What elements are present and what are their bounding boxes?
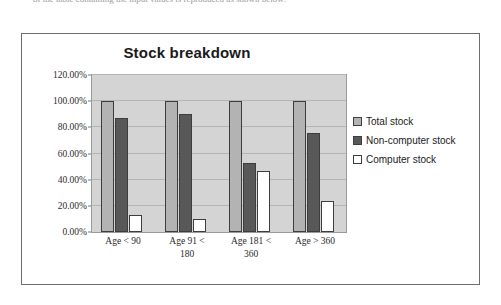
chart-title: Stock breakdown xyxy=(22,44,352,61)
x-axis-tick-label: Age > 360 xyxy=(283,235,347,248)
chart-legend: Total stockNon-computer stockComputer st… xyxy=(353,113,477,170)
y-axis-tick-label: 60.00% xyxy=(22,149,87,159)
legend-swatch-icon xyxy=(353,136,362,145)
bar[interactable] xyxy=(257,171,270,232)
legend-item-label: Computer stock xyxy=(366,154,436,165)
bar[interactable] xyxy=(179,114,192,232)
bar[interactable] xyxy=(193,219,206,232)
y-axis-tick-label: 0.00% xyxy=(22,227,87,237)
legend-item[interactable]: Computer stock xyxy=(353,151,477,168)
x-axis-tick-label-line: Age 91 < xyxy=(155,235,219,248)
bar-group xyxy=(92,75,156,232)
y-axis: 0.00%20.00%40.00%60.00%80.00%100.00%120.… xyxy=(22,74,87,233)
x-axis: Age < 90Age 91 <180Age 181 <360Age > 360 xyxy=(91,235,347,271)
legend-swatch-icon xyxy=(353,117,362,126)
y-axis-tick-label: 80.00% xyxy=(22,122,87,132)
x-axis-tick-label-line: Age 181 < xyxy=(219,235,283,248)
legend-item-label: Total stock xyxy=(366,116,413,127)
bar[interactable] xyxy=(321,201,334,232)
bar[interactable] xyxy=(293,101,306,232)
clipped-header-text: of the table containing the input values… xyxy=(33,0,463,5)
bar[interactable] xyxy=(243,163,256,232)
bar[interactable] xyxy=(129,215,142,232)
bar[interactable] xyxy=(115,118,128,232)
y-axis-tick-label: 120.00% xyxy=(22,70,87,80)
bar-group xyxy=(284,75,348,232)
bars-layer xyxy=(92,75,346,232)
bar[interactable] xyxy=(101,101,114,232)
legend-item-label: Non-computer stock xyxy=(366,135,455,146)
bar[interactable] xyxy=(229,101,242,232)
legend-swatch-icon xyxy=(353,155,362,164)
x-axis-tick-label: Age 91 <180 xyxy=(155,235,219,260)
x-axis-tick-label-line: 360 xyxy=(219,248,283,261)
bar-group xyxy=(156,75,220,232)
x-axis-tick-label: Age 181 <360 xyxy=(219,235,283,260)
bar[interactable] xyxy=(165,101,178,232)
legend-item[interactable]: Non-computer stock xyxy=(353,132,477,149)
x-axis-tick-label-line: Age > 360 xyxy=(283,235,347,248)
x-axis-tick-label: Age < 90 xyxy=(91,235,155,248)
y-axis-tick-label: 20.00% xyxy=(22,201,87,211)
legend-item[interactable]: Total stock xyxy=(353,113,477,130)
y-axis-tick-label: 100.00% xyxy=(22,96,87,106)
y-axis-tick-label: 40.00% xyxy=(22,175,87,185)
x-axis-tick-label-line: 180 xyxy=(155,248,219,261)
chart-frame: Stock breakdown 0.00%20.00%40.00%60.00%8… xyxy=(21,33,480,285)
bar-group xyxy=(220,75,284,232)
clipped-header-text-line: of the table containing the input values… xyxy=(33,0,286,4)
x-axis-tick-label-line: Age < 90 xyxy=(91,235,155,248)
bar[interactable] xyxy=(307,133,320,232)
